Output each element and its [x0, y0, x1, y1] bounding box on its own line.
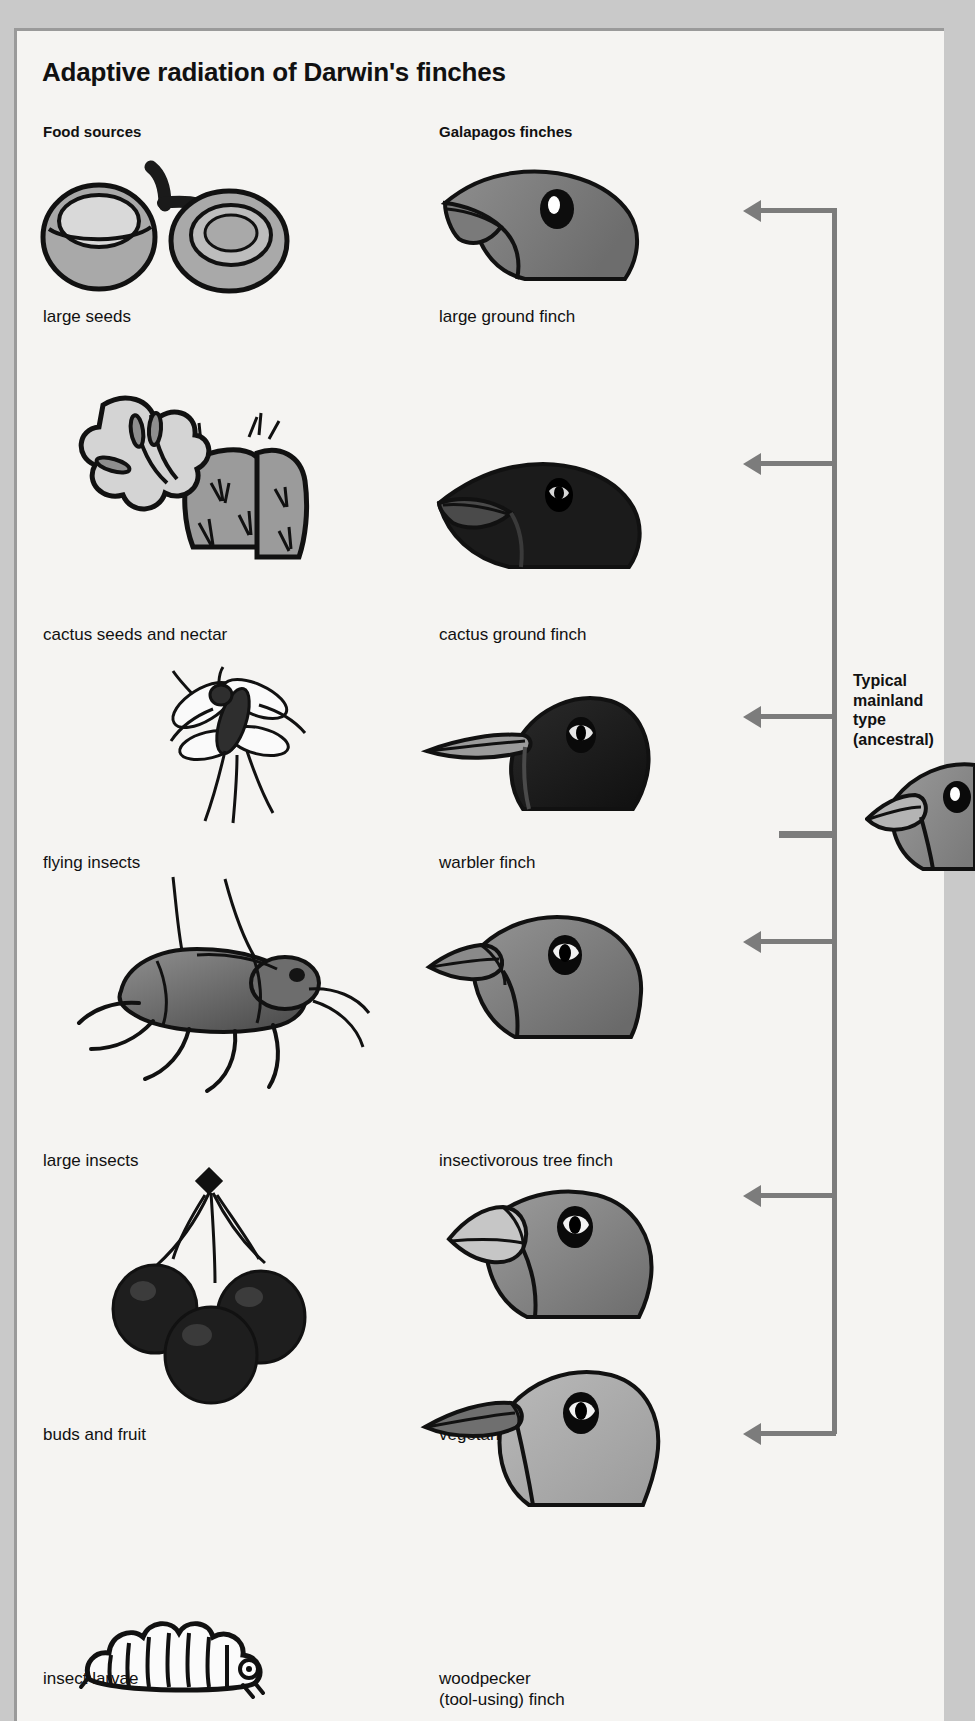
- food-label-buds-and-fruit: buds and fruit: [43, 1425, 146, 1446]
- page-title: Adaptive radiation of Darwin's finches: [42, 57, 506, 88]
- finch-label-insectivorous-tree-finch: insectivorous tree finch: [439, 1151, 613, 1172]
- branch-arrow-6-icon: [743, 1423, 761, 1445]
- cactus-ground-finch-head-icon: [417, 443, 657, 573]
- branch-arrow-4-icon: [743, 931, 761, 953]
- column-header-food-sources: Food sources: [43, 123, 141, 140]
- large-ground-finch-head-icon: [429, 161, 659, 291]
- branch-arm-2: [761, 461, 836, 466]
- diagram-panel: Adaptive radiation of Darwin's finches F…: [14, 28, 944, 1721]
- mainland-type-label: Typical mainland type (ancestral): [853, 671, 934, 749]
- finch-label-woodpecker-finch: woodpecker (tool-using) finch: [439, 1669, 565, 1710]
- phylogeny-spine: [832, 208, 837, 1434]
- branch-arm-4: [761, 939, 836, 944]
- vegetarian-tree-finch-head-icon: [423, 1179, 663, 1319]
- woodpecker-finch-head-icon: [419, 1357, 669, 1507]
- ancestral-finch-head-icon: [865, 757, 975, 877]
- branch-arm-1: [761, 208, 836, 213]
- insectivorous-tree-finch-head-icon: [419, 901, 659, 1041]
- branch-arrow-3-icon: [743, 706, 761, 728]
- warbler-finch-head-icon: [419, 681, 657, 811]
- flying-insect-icon: [147, 659, 337, 829]
- ancestral-connector: [779, 831, 835, 838]
- finch-label-warbler-finch: warbler finch: [439, 853, 535, 874]
- finch-label-cactus-ground-finch: cactus ground finch: [439, 625, 586, 646]
- food-label-cactus-seeds: cactus seeds and nectar: [43, 625, 227, 646]
- food-label-insect-larvae: insect larvae: [43, 1669, 138, 1690]
- caterpillar-larva-icon: [67, 1599, 297, 1709]
- large-beetle-icon: [57, 861, 377, 1121]
- branch-arrow-2-icon: [743, 453, 761, 475]
- branch-arm-6: [761, 1431, 836, 1436]
- branch-arm-5: [761, 1193, 836, 1198]
- column-header-galapagos-finches: Galapagos finches: [439, 123, 572, 140]
- branch-arrow-5-icon: [743, 1185, 761, 1207]
- cactus-flower-icon: [43, 361, 323, 571]
- buds-and-fruit-icon: [93, 1159, 323, 1419]
- large-seeds-icon: [39, 159, 299, 299]
- branch-arm-3: [761, 714, 836, 719]
- finch-label-large-ground-finch: large ground finch: [439, 307, 575, 328]
- branch-arrow-1-icon: [743, 200, 761, 222]
- food-label-large-seeds: large seeds: [43, 307, 131, 328]
